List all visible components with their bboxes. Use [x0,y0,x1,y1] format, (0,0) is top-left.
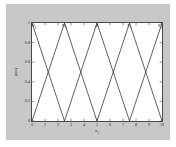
x-tick-label: 3 [70,123,72,127]
x-tick-label: 4 [83,123,85,127]
series-line-p1 [97,23,162,121]
mf-label-n2: N2 [32,24,37,30]
y-tick-label: 0.8 [25,40,30,44]
mf-label-n1: N1 [62,24,67,30]
x-axis-label: x1 [95,128,99,136]
series-line-n1 [32,23,97,121]
mf-label-z: Z [96,24,99,29]
mf-label-p2: P2 [158,24,162,30]
mf-label-p1: P1 [127,24,131,30]
x-tick-label: 0 [31,123,33,127]
y-tick-label: 0 [28,119,30,123]
x-tick-label: 1 [44,123,46,127]
x-tick-label: 5 [96,123,98,127]
y-tick-label: 1 [28,21,30,25]
figure-canvas: 00.20.40.60.81012345678910x1μ(x)N2N1ZP1P… [6,4,170,140]
x-tick-label: 2 [57,123,59,127]
x-tick-label: 7 [122,123,124,127]
y-tick-label: 0.6 [25,60,30,64]
series-line-z [65,23,130,121]
x-tick-label: 9 [148,123,150,127]
membership-function-lines [32,23,162,121]
x-tick-label: 6 [109,123,111,127]
x-tick-label: 10 [160,123,164,127]
y-tick-label: 0.4 [25,80,30,84]
plot-axes: 00.20.40.60.81012345678910x1μ(x)N2N1ZP1P… [31,22,163,122]
y-tick-label: 0.2 [25,99,30,103]
x-tick-label: 8 [135,123,137,127]
y-axis-label: μ(x) [13,68,18,77]
